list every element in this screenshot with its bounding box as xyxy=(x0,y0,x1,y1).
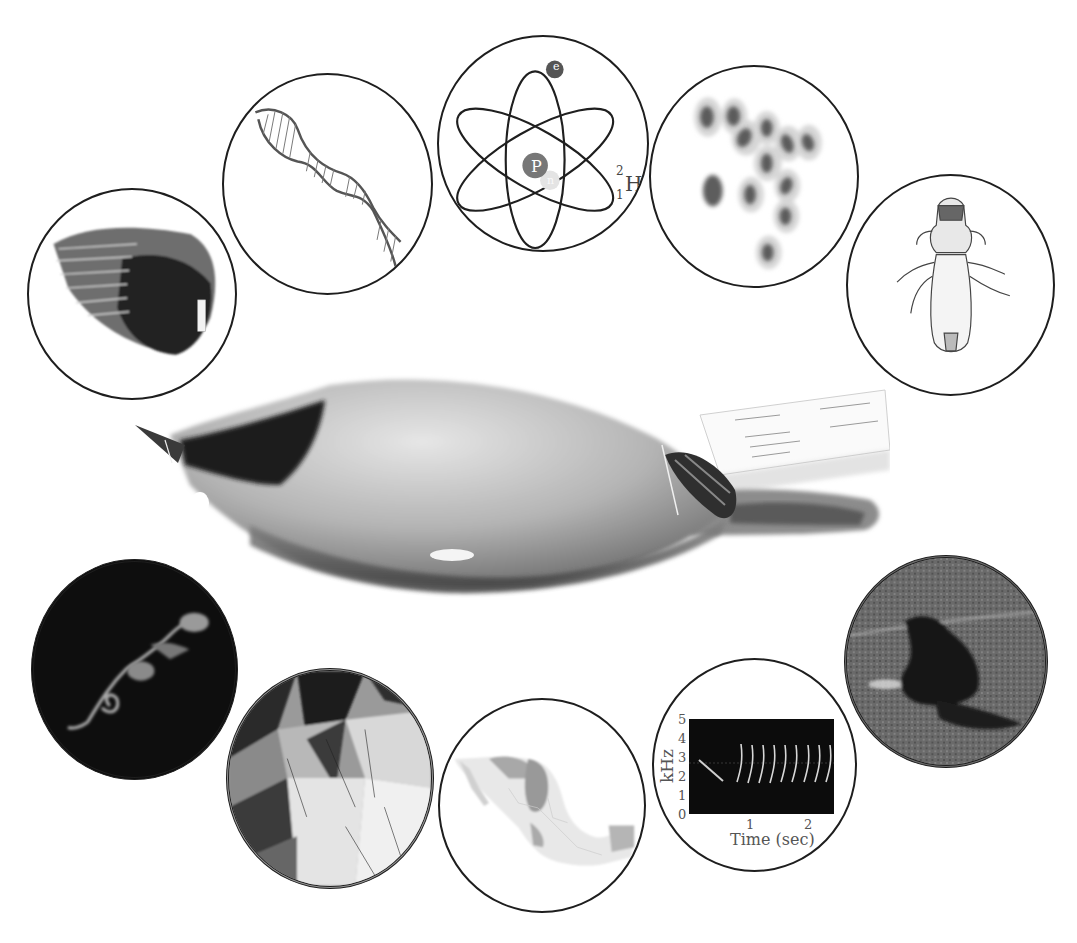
ytick-4: 4 xyxy=(678,731,686,746)
ytick-2: 2 xyxy=(678,769,686,784)
panel-dna xyxy=(222,73,433,295)
panel-wing xyxy=(27,188,237,400)
ytick-1: 1 xyxy=(678,788,686,803)
eye-cotton xyxy=(191,492,209,514)
louse-icon xyxy=(848,176,1053,394)
bird-specimen xyxy=(130,375,890,600)
bird-specimen-illustration xyxy=(130,375,890,600)
specimen-tag xyxy=(700,390,890,493)
neutron-label: n xyxy=(547,174,554,187)
electron-label: e xyxy=(553,60,560,73)
isotope-symbol: H xyxy=(625,172,642,196)
ytick-0: 0 xyxy=(678,807,686,822)
isotope-number: 1 xyxy=(616,188,624,202)
panel-display-photo xyxy=(844,555,1048,768)
blood-cells-icon xyxy=(651,67,857,286)
panel-cells xyxy=(649,65,859,288)
atom-icon xyxy=(439,37,647,250)
ytick-5: 5 xyxy=(678,712,686,727)
skeleton-icon xyxy=(34,562,235,777)
ytick-3: 3 xyxy=(678,750,686,765)
panel-distribution-map xyxy=(438,698,646,913)
mexico-map-icon xyxy=(440,700,644,911)
panel-microstructure xyxy=(226,668,434,889)
dna-helix-icon xyxy=(224,75,431,293)
microstructure-icon xyxy=(229,671,431,886)
x-axis-label: Time (sec) xyxy=(730,830,815,849)
panel-louse xyxy=(846,174,1055,396)
panel-atom: e P n 2 1 H xyxy=(437,35,649,252)
spectrogram-traces xyxy=(689,719,834,814)
y-axis-label: kHz xyxy=(657,749,677,783)
isotope-mass: 2 xyxy=(616,164,624,178)
wing-icon xyxy=(29,190,235,398)
spectrogram-plot xyxy=(689,719,834,814)
proton-label: P xyxy=(531,157,542,176)
panel-skeleton xyxy=(31,559,238,780)
panel-spectrogram: 5 4 3 2 1 0 kHz 1 2 Time (sec) xyxy=(652,658,857,872)
displaying-bird-icon xyxy=(847,558,1045,765)
